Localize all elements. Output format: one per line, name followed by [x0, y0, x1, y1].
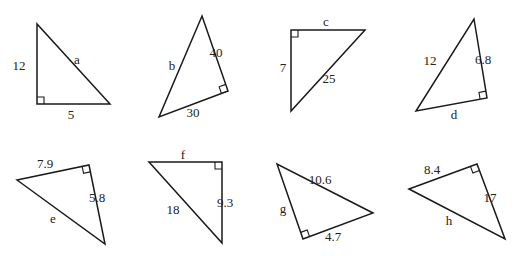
triangle-e: 7.95.8e	[17, 156, 105, 244]
unknown-side-label: f	[181, 147, 186, 162]
side-length-label: 40	[210, 45, 223, 60]
side-length-label: 12	[13, 58, 26, 73]
triangle-b: b4030	[159, 16, 228, 120]
unknown-side-label: h	[446, 213, 453, 228]
side-length-label: 17	[484, 190, 498, 205]
triangle-f: f189.3	[149, 147, 233, 243]
unknown-side-label: d	[451, 107, 458, 122]
side-length-label: 6.8	[475, 52, 491, 67]
triangle-diagram: 12a5b4030c725126.8d7.95.8ef189.310.6g4.7…	[0, 0, 520, 256]
unknown-side-label: b	[169, 58, 176, 73]
right-angle-marker-icon	[291, 30, 298, 37]
triangle-a: 12a5	[13, 24, 111, 122]
triangle-h: 8.417h	[409, 162, 505, 239]
side-length-label: 25	[323, 71, 336, 86]
unknown-side-label: c	[323, 14, 329, 29]
triangle-d: 126.8d	[416, 19, 491, 122]
unknown-side-label: g	[280, 201, 287, 216]
unknown-side-label: e	[50, 211, 56, 226]
side-length-label: 10.6	[309, 172, 332, 187]
triangle-g: 10.6g4.7	[277, 164, 373, 244]
right-angle-marker-icon	[37, 97, 44, 104]
side-length-label: 18	[167, 202, 180, 217]
side-length-label: 12	[424, 53, 437, 68]
side-length-label: 5	[68, 107, 75, 122]
side-length-label: 8.4	[424, 162, 441, 177]
side-length-label: 7	[280, 60, 287, 75]
triangle-outline	[149, 162, 222, 243]
triangle-c: c725	[280, 14, 365, 111]
unknown-side-label: a	[74, 52, 80, 67]
side-length-label: 9.3	[217, 195, 233, 210]
right-angle-marker-icon	[215, 162, 222, 169]
side-length-label: 7.9	[37, 156, 53, 171]
side-length-label: 5.8	[89, 190, 105, 205]
side-length-label: 30	[187, 105, 200, 120]
side-length-label: 4.7	[325, 229, 342, 244]
